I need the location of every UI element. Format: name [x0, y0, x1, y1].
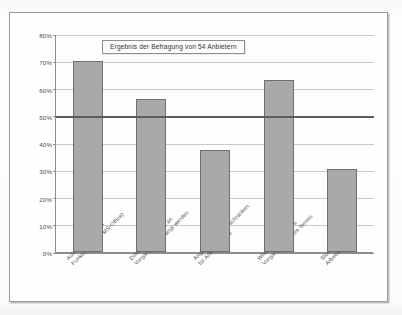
bar-5 — [327, 169, 357, 252]
y-axis-label-50: 50% — [39, 113, 52, 120]
y-tickmark-10 — [53, 225, 56, 226]
chart-title: Ergebnis der Befragung von 54 Anbietern — [102, 40, 245, 54]
y-axis-label-20: 20% — [39, 195, 52, 202]
gridline-70 — [56, 62, 374, 63]
y-axis-label-10: 10% — [39, 222, 52, 229]
y-axis-label-80: 80% — [39, 32, 52, 39]
bar-2 — [136, 99, 166, 252]
chart-frame: Ergebnis der Befragung von 54 Anbietern … — [9, 12, 388, 302]
bar-1 — [73, 61, 103, 252]
y-axis-label-30: 30% — [39, 168, 52, 175]
plot-area: 80%70%60%50%40%30%20%10%0% — [55, 35, 373, 253]
y-tickmark-70 — [53, 62, 56, 63]
y-tickmark-20 — [53, 198, 56, 199]
y-axis-label-0: 0% — [43, 250, 52, 257]
bar-4 — [264, 80, 294, 252]
y-tickmark-40 — [53, 144, 56, 145]
y-tickmark-60 — [53, 89, 56, 90]
bar-3 — [200, 150, 230, 252]
y-tickmark-30 — [53, 171, 56, 172]
gridline-80 — [56, 35, 374, 36]
y-axis-label-60: 60% — [39, 86, 52, 93]
y-axis-label-70: 70% — [39, 59, 52, 66]
y-tickmark-0 — [53, 253, 56, 254]
y-axis-label-40: 40% — [39, 141, 52, 148]
gridline-40 — [56, 144, 374, 145]
gridline-60 — [56, 89, 374, 90]
y-tickmark-80 — [53, 35, 56, 36]
reference-line-50 — [56, 116, 374, 118]
